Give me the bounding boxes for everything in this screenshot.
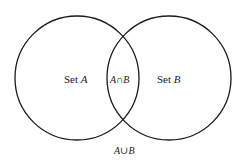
set-a-label: Set A [64, 73, 88, 85]
set-b-label: Set B [157, 73, 181, 85]
union-label: A∪B [113, 145, 135, 156]
venn-diagram: Set A A∩B Set B A∪B [0, 0, 244, 166]
intersection-label: A∩B [109, 74, 129, 85]
